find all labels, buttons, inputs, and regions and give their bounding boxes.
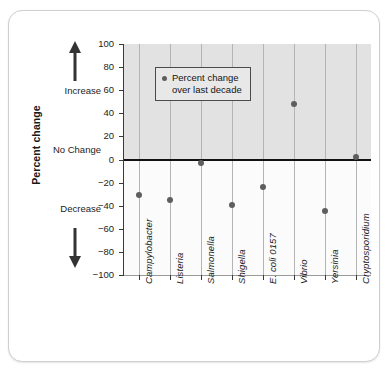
x-tick [201,275,202,280]
y-tick: 100 [119,44,123,45]
x-tick [294,275,295,280]
y-tick-label: −20 [80,177,114,188]
y-tick-label: 20 [80,130,114,141]
x-axis-category-label: Yersinia [329,249,340,284]
legend: Percent change over last decade [155,67,251,101]
x-axis-category-label: Cryptosporidium [360,213,371,284]
y-tick: 0 [119,160,123,161]
y-tick: −100 [119,275,123,276]
y-tick-label: −100 [80,269,114,280]
y-tick: −80 [119,252,123,253]
x-axis-category-label: Vibrio [298,259,309,284]
y-tick-label: 100 [80,38,114,49]
y-tick: −20 [119,183,123,184]
y-tick-label: 0 [80,154,114,165]
data-point [260,184,266,190]
data-point [136,192,142,198]
x-axis-category-label: E. coli 0157 [267,233,278,284]
data-point [322,208,328,214]
x-tick [356,275,357,280]
x-axis-category-label: Campylobacter [143,219,154,284]
plot-box: Percent change over last decade [123,44,371,275]
chart-plot-area: Percent change over last decade 10080604… [123,36,381,283]
y-tick-label: 80 [80,61,114,72]
dot-marker-icon [162,76,167,81]
figure-card: Percent change Increase No Change Decrea… [8,10,380,362]
y-tick: 20 [119,136,123,137]
data-point [353,154,359,160]
y-tick-label: −60 [80,223,114,234]
y-tick-label: −40 [80,200,114,211]
x-tick [139,275,140,280]
x-axis-category-label: Salmonella [205,236,216,284]
positive-shaded-region [123,44,371,160]
data-point [229,202,235,208]
x-tick [325,275,326,280]
y-tick-label: 40 [80,107,114,118]
legend-line-1: Percent change [172,72,242,84]
data-point [291,101,297,107]
y-tick: 60 [119,90,123,91]
y-tick-label: 60 [80,84,114,95]
x-axis-category-label: Shigella [236,249,247,284]
y-tick: 40 [119,113,123,114]
x-tick [170,275,171,280]
y-tick: −40 [119,206,123,207]
data-point [198,160,204,166]
y-tick-label: −80 [80,246,114,257]
y-tick: 80 [119,67,123,68]
x-tick [263,275,264,280]
y-axis-line [123,44,124,276]
data-point [167,197,173,203]
x-tick [232,275,233,280]
legend-line-2: over last decade [172,84,242,96]
x-axis-category-label: Listeria [174,253,185,284]
legend-text: Percent change over last decade [172,72,242,95]
zero-reference-line [123,159,371,161]
y-tick: −60 [119,229,123,230]
